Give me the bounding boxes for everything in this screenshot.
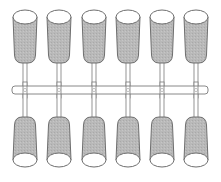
top-tube bbox=[13, 10, 37, 63]
tube-opening bbox=[116, 10, 140, 24]
tube-opening bbox=[184, 153, 208, 167]
tube-opening bbox=[82, 10, 106, 24]
top-tube bbox=[116, 10, 140, 63]
bottom-tube bbox=[47, 117, 71, 167]
horizontal-rail bbox=[12, 86, 208, 94]
tube-opening bbox=[47, 10, 71, 24]
top-tube bbox=[184, 10, 208, 63]
tube-opening bbox=[150, 153, 174, 167]
bottom-tube bbox=[116, 117, 140, 167]
bottom-tube bbox=[82, 117, 106, 167]
joint-node bbox=[126, 88, 129, 91]
top-tube bbox=[47, 10, 71, 63]
bottom-tube bbox=[13, 117, 37, 167]
bottom-tube bbox=[184, 117, 208, 167]
rail-bar bbox=[12, 86, 208, 94]
diagram-canvas bbox=[0, 0, 221, 182]
joint-node bbox=[92, 88, 95, 91]
joint-node bbox=[57, 88, 60, 91]
tube-rack-diagram bbox=[0, 0, 221, 182]
tube-opening bbox=[13, 10, 37, 24]
joint-node bbox=[23, 88, 26, 91]
tube-opening bbox=[116, 153, 140, 167]
bottom-tube bbox=[150, 117, 174, 167]
bottom-row-tubes bbox=[13, 117, 208, 167]
tube-opening bbox=[184, 10, 208, 24]
tube-opening bbox=[82, 153, 106, 167]
joint-node bbox=[194, 88, 197, 91]
top-tube bbox=[150, 10, 174, 63]
joint-node bbox=[160, 88, 163, 91]
tube-opening bbox=[13, 153, 37, 167]
top-tube bbox=[82, 10, 106, 63]
tube-opening bbox=[150, 10, 174, 24]
tube-opening bbox=[47, 153, 71, 167]
top-row-tubes bbox=[13, 10, 208, 63]
